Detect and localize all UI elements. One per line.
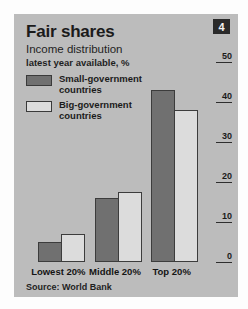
y-axis-tick-label: 40 — [204, 91, 232, 101]
bar-group — [87, 62, 144, 262]
x-axis-category-label: Middle 20% — [87, 266, 144, 277]
bar-big-gov — [174, 110, 198, 262]
x-axis-category-label: Top 20% — [143, 266, 200, 277]
chart-source: Source: World Bank — [26, 282, 112, 292]
y-axis-tick-label: 10 — [204, 211, 232, 221]
bar-small-gov — [151, 90, 175, 262]
chart-panel: Fair shares Income distribution latest y… — [14, 14, 238, 297]
y-axis-tick-label: 50 — [204, 51, 232, 61]
y-axis-tick-label: 0 — [204, 251, 232, 261]
y-axis-tick-rule — [216, 102, 232, 103]
bar-small-gov — [95, 198, 119, 262]
chart-figure: Fair shares Income distribution latest y… — [0, 0, 248, 309]
bar-group — [143, 62, 200, 262]
y-axis-tick-label: 20 — [204, 171, 232, 181]
bar-small-gov — [38, 242, 62, 262]
y-axis-tick-label: 30 — [204, 131, 232, 141]
y-axis-tick-rule — [216, 262, 232, 263]
bar-group — [30, 62, 87, 262]
bar-big-gov — [61, 234, 85, 262]
x-axis-category-label: Lowest 20% — [30, 266, 87, 277]
plot-area: 01020304050 Lowest 20%Middle 20%Top 20% — [14, 14, 238, 297]
y-axis-tick-rule — [216, 142, 232, 143]
bar-big-gov — [118, 192, 142, 262]
y-axis-tick-rule — [216, 62, 232, 63]
y-axis-tick-rule — [216, 182, 232, 183]
y-axis-tick-rule — [216, 222, 232, 223]
